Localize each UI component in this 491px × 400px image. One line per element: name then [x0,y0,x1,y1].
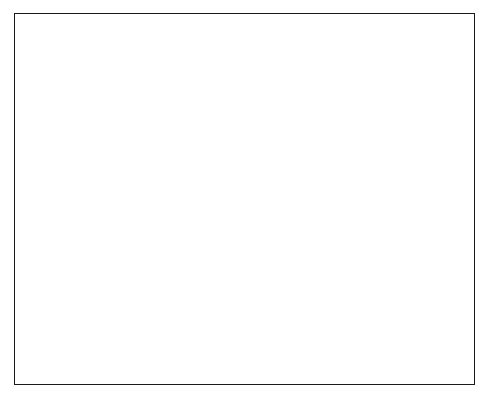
chart-frame [14,13,475,385]
area-chart-plot [15,14,476,386]
